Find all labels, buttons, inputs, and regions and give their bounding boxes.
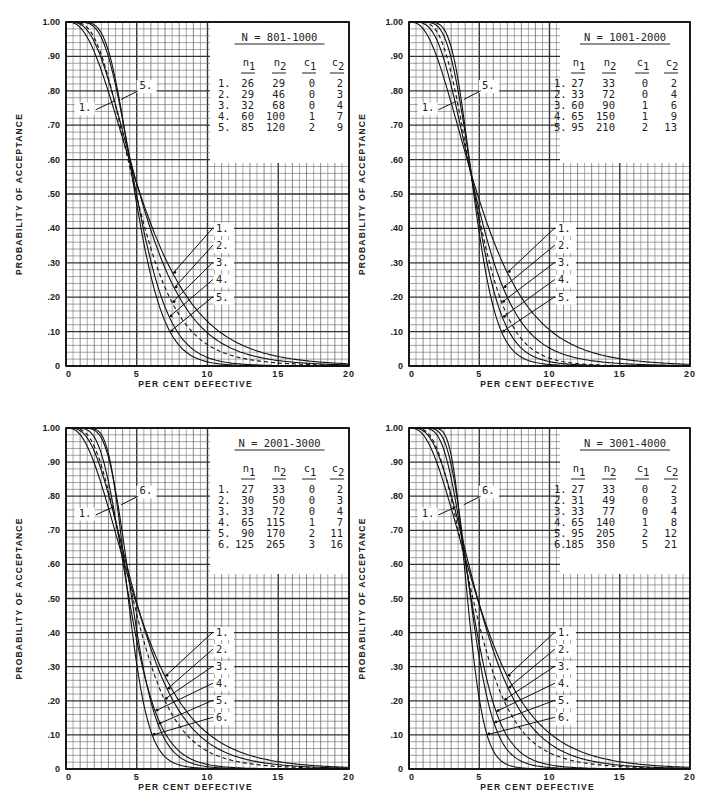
y-tick-label: 0 [55,361,60,371]
y-tick-label: .60 [47,155,60,165]
svg-text:1: 1 [249,60,255,72]
row-number: 5. [218,121,231,133]
y-tick-label: .40 [47,628,60,638]
cell-n2: 265 [266,538,285,550]
y-tick-label: .40 [390,223,403,233]
y-tick-label: 1.00 [385,17,403,27]
chart-svg: 0.10.20.30.40.50.60.70.80.901.0005101520… [0,0,360,400]
y-tick-label: .60 [47,559,60,569]
x-tick-label: 10 [201,369,213,379]
cell-n2: 210 [596,121,615,133]
callout-label-6: 6. [558,711,571,723]
x-tick-label: 5 [134,369,140,379]
y-tick-label: 0 [398,361,403,371]
x-tick-label: 0 [409,369,415,379]
y-tick-label: .70 [47,120,60,130]
callout-label-3: 3. [558,660,571,672]
callout-label-5: 5. [558,291,571,303]
x-tick-label: 15 [272,369,284,379]
chart-svg: 0.10.20.30.40.50.60.70.80.901.0005101520… [343,0,720,400]
y-tick-label: .80 [390,86,403,96]
x-tick-label: 0 [409,772,415,782]
svg-text:2: 2 [672,60,678,72]
y-tick-label: .70 [390,525,403,535]
y-tick-label: .80 [47,491,60,501]
y-tick-label: .90 [47,457,60,467]
svg-text:2: 2 [610,60,616,72]
callout-label-5: 5. [482,79,495,91]
y-tick-label: 1.00 [385,423,403,433]
oc-chart-n-801-1000: 0.10.20.30.40.50.60.70.80.901.0005101520… [0,0,360,400]
y-tick-label: .90 [47,51,60,61]
callout-label-2: 2. [558,239,571,251]
svg-text:1: 1 [310,60,316,72]
svg-text:2: 2 [280,466,286,478]
cell-n1: 95 [571,121,584,133]
callout-label-1: 1. [79,507,92,519]
callout-label-5: 5. [558,694,571,706]
y-axis-label: PROBABILITY OF ACCEPTANCE [14,517,24,679]
callout-label-3: 3. [216,256,229,268]
x-tick-label: 10 [201,772,213,782]
y-tick-label: .50 [47,594,60,604]
x-tick-label: 5 [134,772,140,782]
callout-label-1: 1. [558,626,571,638]
row-number: 6. [218,538,231,550]
x-tick-label: 15 [272,772,284,782]
y-tick-label: .10 [47,730,60,740]
y-tick-label: .70 [390,120,403,130]
y-tick-label: .30 [390,662,403,672]
y-tick-label: .40 [47,223,60,233]
callout-label-4: 4. [216,273,229,285]
y-axis-label: PROBABILITY OF ACCEPTANCE [357,113,367,275]
y-tick-label: .30 [47,258,60,268]
x-tick-label: 15 [614,772,626,782]
y-tick-label: .20 [390,696,403,706]
y-tick-label: .50 [390,594,403,604]
callout-leader-line [487,717,555,735]
legend-title: N = 1001-2000 [584,31,666,43]
cell-c2: 21 [664,538,677,550]
y-tick-label: .10 [47,327,60,337]
x-axis-label: PER CENT DEFECTIVE [480,782,595,792]
y-tick-label: .50 [390,189,403,199]
oc-chart-n-2001-3000: 0.10.20.30.40.50.60.70.80.901.0005101520… [0,406,360,801]
callout-label-1: 1. [216,222,229,234]
y-tick-label: .50 [47,189,60,199]
cell-c1: 3 [309,538,315,550]
callout-label-1: 1. [422,101,435,113]
legend-title: N = 2001-3000 [238,437,320,449]
callout-label-5: 5. [216,291,229,303]
x-tick-label: 0 [66,772,72,782]
legend-title: N = 801-1000 [242,31,318,43]
y-axis-label: PROBABILITY OF ACCEPTANCE [14,113,24,275]
svg-text:2: 2 [280,60,286,72]
callout-label-2: 2. [216,239,229,251]
svg-text:1: 1 [643,466,649,478]
y-tick-label: .70 [47,525,60,535]
cell-c2: 16 [330,538,343,550]
cell-n1: 125 [235,538,254,550]
y-tick-label: .20 [47,292,60,302]
callout-leader-line [167,649,213,689]
callout-label-1: 1. [216,626,229,638]
oc-chart-n-1001-2000: 0.10.20.30.40.50.60.70.80.901.0005101520… [343,0,720,400]
y-tick-label: .90 [390,51,403,61]
callout-label-6: 6. [216,711,229,723]
cell-c1: 5 [642,538,648,550]
callout-label-1: 1. [558,222,571,234]
y-tick-label: .90 [390,457,403,467]
y-tick-label: 1.00 [42,17,60,27]
x-tick-label: 20 [684,369,696,379]
x-tick-label: 10 [543,369,555,379]
svg-text:2: 2 [610,466,616,478]
svg-text:1: 1 [643,60,649,72]
callout-leader-line [170,297,213,332]
y-tick-label: 1.00 [42,423,60,433]
y-tick-label: 0 [55,764,60,774]
callout-label-6: 6. [140,484,153,496]
callout-label-4: 4. [558,677,571,689]
y-tick-label: .60 [390,559,403,569]
curve-callouts: 1.5.1.2.3.4.5. [418,79,576,333]
x-tick-label: 5 [476,369,482,379]
